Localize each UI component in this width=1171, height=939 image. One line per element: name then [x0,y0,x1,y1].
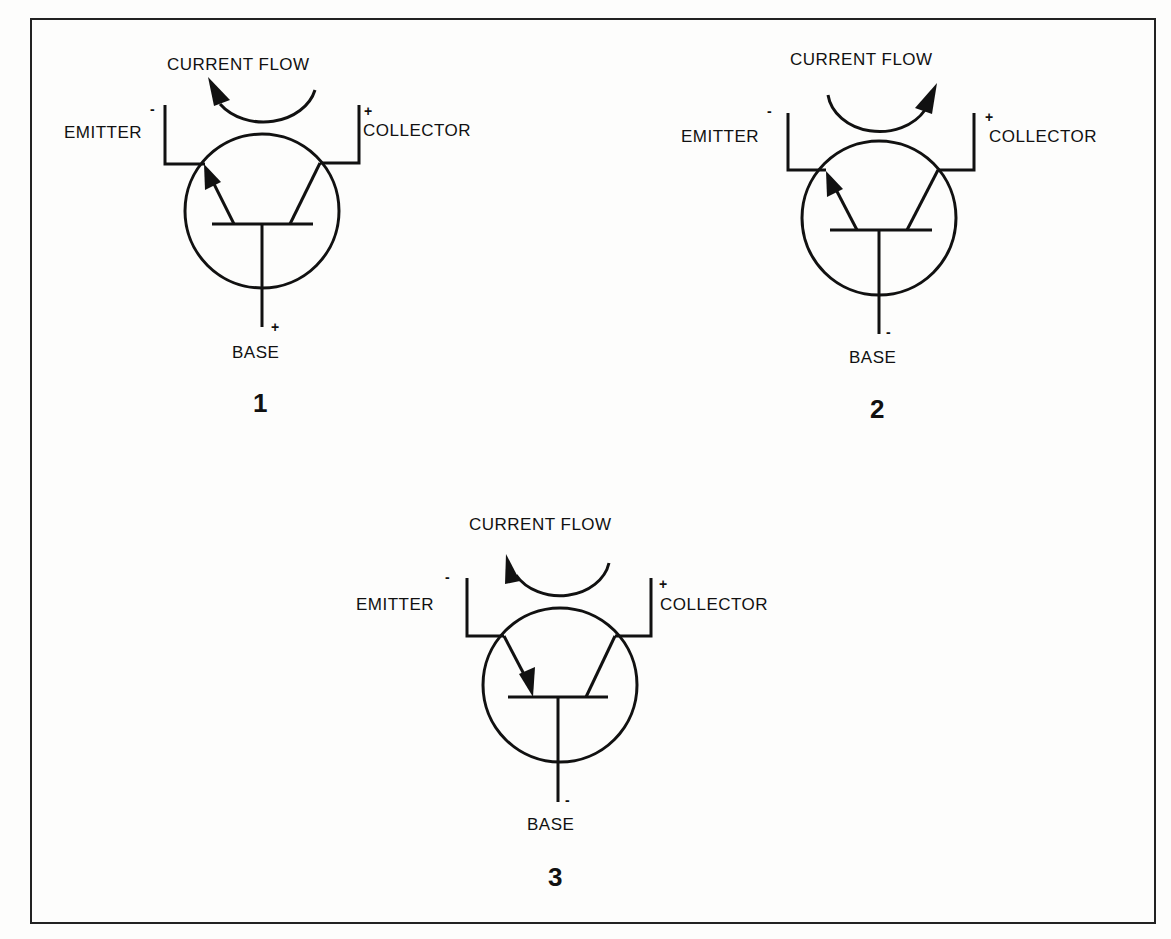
base-polarity: - [886,324,891,340]
current-flow-arc [516,563,609,596]
emitter-label: EMITTER [681,127,759,146]
emitter-arrow-icon [826,171,843,197]
collector-label: COLLECTOR [660,595,768,614]
emitter-label: EMITTER [64,123,142,142]
collector-polarity: + [364,103,372,119]
current-flow-arc [828,95,925,132]
collector-polarity: + [659,576,667,592]
current-flow-label: CURRENT FLOW [469,515,612,534]
transistor-envelope [483,608,637,762]
base-polarity: - [565,792,570,808]
current-flow-arrowhead-icon [505,554,520,584]
emitter-lead [165,105,205,164]
collector-lead [320,105,359,163]
emitter-polarity: - [150,101,155,117]
collector-line [907,170,938,230]
base-label: BASE [232,343,279,362]
current-flow-arrowhead-icon [208,77,230,106]
current-flow-arrowhead-icon [915,83,937,114]
transistor-diagram-1: CURRENT FLOW - EMITTER + COLLECTOR + BAS… [64,55,471,418]
collector-lead [615,578,651,636]
emitter-arrow-icon [204,164,221,190]
transistor-diagram-figure: CURRENT FLOW - EMITTER + COLLECTOR + BAS… [0,0,1171,939]
base-polarity: + [271,319,279,335]
emitter-lead [788,113,826,170]
collector-line [586,636,615,697]
emitter-polarity: - [767,103,772,119]
diagram-number: 3 [548,862,562,892]
emitter-lead [467,578,504,636]
emitter-polarity: - [445,569,450,585]
emitter-label: EMITTER [356,595,434,614]
current-flow-label: CURRENT FLOW [167,55,310,74]
current-flow-arc [220,90,315,122]
transistor-diagram-2: CURRENT FLOW - EMITTER + COLLECTOR - BAS… [681,50,1097,424]
collector-label: COLLECTOR [363,121,471,140]
diagram-number: 1 [253,388,267,418]
base-label: BASE [849,348,896,367]
collector-label: COLLECTOR [989,127,1097,146]
figure-border [31,19,1155,923]
collector-lead [938,113,974,170]
current-flow-label: CURRENT FLOW [790,50,933,69]
diagram-number: 2 [870,394,884,424]
transistor-diagram-3: CURRENT FLOW - EMITTER + COLLECTOR - BAS… [356,515,768,892]
collector-line [290,163,320,224]
collector-polarity: + [985,109,993,125]
base-label: BASE [527,815,574,834]
